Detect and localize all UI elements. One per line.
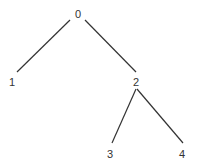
node-3-label: 3: [107, 148, 113, 160]
edge-2-3: [112, 89, 136, 143]
edge-0-1: [17, 20, 70, 72]
edge-2-4: [137, 89, 183, 143]
tree-diagram: 0 1 2 3 4: [0, 0, 198, 164]
edge-0-2: [85, 20, 136, 72]
node-4-label: 4: [179, 148, 185, 160]
node-2-label: 2: [133, 76, 139, 88]
node-0-label: 0: [75, 8, 81, 20]
node-1-label: 1: [9, 76, 15, 88]
